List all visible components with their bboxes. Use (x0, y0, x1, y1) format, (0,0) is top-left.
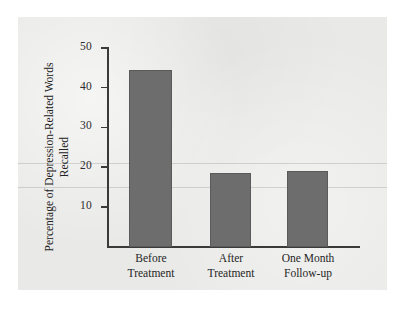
bar-one-month-follow-up[interactable] (287, 171, 328, 247)
y-axis-line (107, 47, 109, 247)
y-tick-label-40: 40 (62, 80, 92, 92)
y-tick-label-30: 30 (62, 119, 92, 131)
x-category-label-line-2: Treatment (110, 266, 192, 281)
figure-root: Percentage of Depression-Related Words R… (0, 0, 405, 310)
x-category-label-line-2: Follow-up (266, 266, 350, 281)
bar-after-treatment[interactable] (210, 173, 251, 247)
x-category-label-line-1: One Month (266, 251, 350, 266)
x-category-label-line-2: Treatment (190, 266, 272, 281)
x-category-label-after-treatment: After Treatment (190, 251, 272, 281)
y-tick-mark-10 (101, 206, 108, 208)
bar-before-treatment[interactable] (129, 70, 172, 247)
y-tick-mark-40 (101, 87, 108, 89)
x-category-label-before-treatment: Before Treatment (110, 251, 192, 281)
plot-area: Percentage of Depression-Related Words R… (0, 0, 405, 310)
y-tick-label-20: 20 (62, 159, 92, 171)
x-category-label-line-1: Before (110, 251, 192, 266)
x-category-label-one-month-follow-up: One Month Follow-up (266, 251, 350, 281)
y-tick-label-10: 10 (62, 199, 92, 211)
y-tick-mark-20 (101, 166, 108, 168)
y-tick-mark-30 (101, 127, 108, 129)
y-tick-label-50: 50 (62, 40, 92, 52)
y-tick-mark-50 (101, 47, 108, 49)
x-category-label-line-1: After (190, 251, 272, 266)
y-axis-title-line-1: Percentage of Depression-Related (43, 95, 55, 251)
